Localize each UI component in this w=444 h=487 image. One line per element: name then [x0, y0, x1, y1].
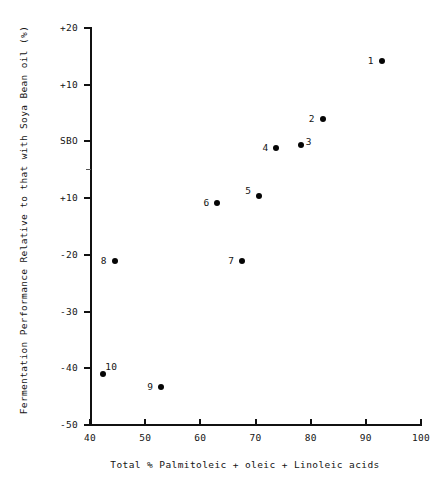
- data-point: [214, 200, 220, 206]
- x-tick-label: 70: [236, 432, 276, 443]
- x-axis-title: Total % Palmitoleic + oleic + Linoleic a…: [60, 459, 430, 470]
- y-tick-label: -40: [34, 362, 78, 373]
- data-point: [158, 384, 164, 390]
- x-tick-label: 80: [291, 432, 331, 443]
- x-tick-label: 50: [125, 432, 165, 443]
- y-tick-label: -30: [34, 306, 78, 317]
- y-tick-label: +10: [34, 79, 78, 90]
- x-tick-mark: [255, 419, 257, 426]
- data-point-label: 1: [368, 56, 374, 66]
- y-tick-label: -20: [34, 249, 78, 260]
- x-tick-label: 90: [346, 432, 386, 443]
- x-tick-mark: [89, 419, 91, 426]
- y-minor-tick-mark: [86, 169, 91, 170]
- y-tick-mark: [84, 197, 92, 199]
- y-tick-mark: [84, 27, 92, 29]
- y-tick-mark: [84, 254, 92, 256]
- scatter-plot-figure: Fermentation Performance Relative to tha…: [0, 0, 444, 487]
- data-point: [298, 142, 304, 148]
- data-point: [273, 145, 279, 151]
- data-point-label: 7: [228, 256, 234, 266]
- y-tick-mark: [84, 367, 92, 369]
- y-axis-title: Fermentation Performance Relative to tha…: [14, 18, 34, 422]
- y-tick-label: -50: [34, 419, 78, 430]
- y-tick-label: +20: [34, 22, 78, 33]
- data-point-label: 2: [309, 114, 315, 124]
- data-point-label: 5: [245, 186, 251, 196]
- y-tick-label: SBO: [34, 135, 78, 146]
- data-point-label: 3: [306, 137, 312, 147]
- data-point-label: 6: [203, 198, 209, 208]
- data-point-label: 8: [101, 256, 107, 266]
- x-tick-mark: [310, 419, 312, 426]
- data-point: [379, 58, 385, 64]
- data-point: [256, 193, 262, 199]
- y-tick-mark: [84, 311, 92, 313]
- data-point: [239, 258, 245, 264]
- y-tick-mark: [84, 140, 92, 142]
- data-point: [320, 116, 326, 122]
- x-tick-mark: [420, 419, 422, 426]
- x-tick-label: 60: [180, 432, 220, 443]
- data-point-label: 4: [262, 143, 268, 153]
- y-axis-line: [90, 27, 92, 426]
- x-tick-label: 100: [401, 432, 441, 443]
- x-tick-label: 40: [70, 432, 110, 443]
- x-tick-mark: [144, 419, 146, 426]
- data-point-label: 9: [147, 382, 153, 392]
- data-point-label: 10: [105, 362, 117, 372]
- x-tick-mark: [365, 419, 367, 426]
- x-tick-mark: [199, 419, 201, 426]
- y-tick-label: +10: [34, 192, 78, 203]
- y-tick-mark: [84, 84, 92, 86]
- data-point: [112, 258, 118, 264]
